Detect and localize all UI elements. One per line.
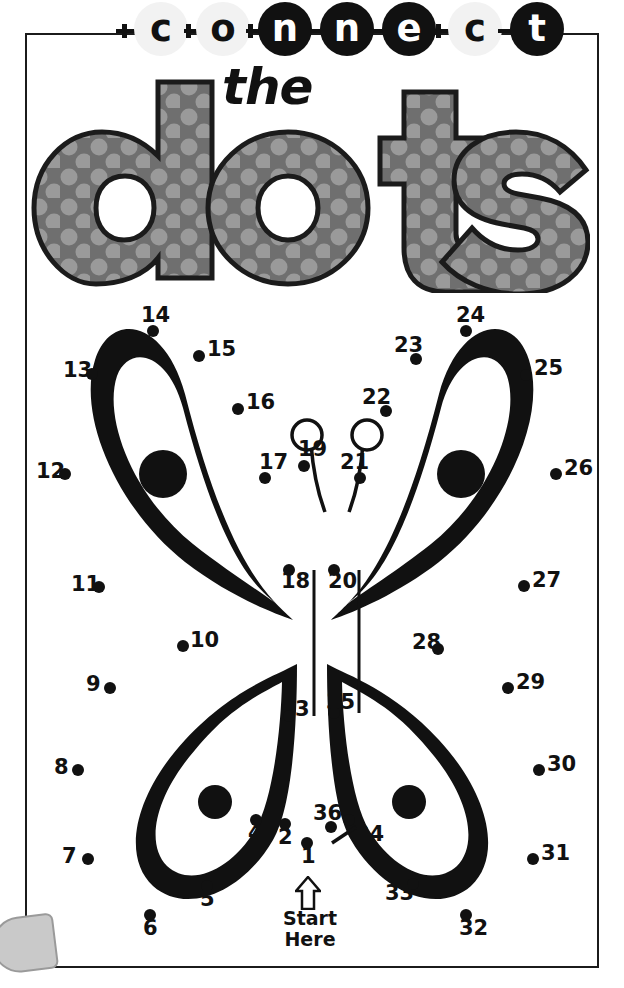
- puzzle-dot-label-34: 34: [355, 822, 384, 846]
- start-here-caption: Start Here: [268, 908, 352, 950]
- puzzle-dot-7[interactable]: [82, 853, 94, 865]
- puzzle-dot-label-30: 30: [547, 752, 576, 776]
- puzzle-dot-27[interactable]: [518, 580, 530, 592]
- start-line-2: Here: [268, 929, 352, 950]
- puzzle-page: c o n n e c t the: [0, 0, 624, 988]
- start-here-arrow-icon: [295, 876, 321, 910]
- connect-letter-6: c: [448, 2, 502, 56]
- puzzle-dot-label-20: 20: [328, 569, 357, 593]
- butterfly-puzzle-area: 1234567891011121314151617181920212223242…: [25, 300, 599, 960]
- puzzle-dot-31[interactable]: [527, 853, 539, 865]
- puzzle-dot-label-23: 23: [394, 333, 423, 357]
- connect-letter-2: o: [196, 2, 250, 56]
- start-line-1: Start: [268, 908, 352, 929]
- puzzle-dot-label-15: 15: [207, 337, 236, 361]
- puzzle-dot-label-5: 5: [200, 887, 215, 911]
- puzzle-dot-label-29: 29: [516, 670, 545, 694]
- puzzle-dot-label-19: 19: [298, 437, 327, 461]
- title-link-tick: [436, 24, 441, 38]
- connect-letter-5: e: [382, 2, 436, 56]
- puzzle-dot-label-14: 14: [141, 303, 170, 327]
- puzzle-dot-10[interactable]: [177, 640, 189, 652]
- puzzle-dot-label-2: 2: [278, 825, 293, 849]
- puzzle-dot-label-21: 21: [340, 450, 369, 474]
- puzzle-dot-label-26: 26: [564, 456, 593, 480]
- puzzle-dot-3[interactable]: [283, 710, 295, 722]
- connect-letter-4: n: [320, 2, 374, 56]
- puzzle-dot-25[interactable]: [520, 369, 532, 381]
- title-link-tick: [186, 24, 191, 38]
- dots-letter-d: [34, 82, 212, 284]
- puzzle-dot-9[interactable]: [104, 682, 116, 694]
- title-link-tick: [248, 24, 253, 38]
- puzzle-dot-label-17: 17: [259, 450, 288, 474]
- dots-letter-s: [442, 132, 588, 293]
- puzzle-dot-label-1: 1: [301, 844, 316, 868]
- puzzle-dot-label-32: 32: [459, 916, 488, 940]
- puzzle-dot-26[interactable]: [550, 468, 562, 480]
- puzzle-dot-label-25: 25: [534, 356, 563, 380]
- puzzle-dot-34[interactable]: [343, 814, 355, 826]
- connect-title: c o n n e c t: [130, 2, 540, 60]
- puzzle-dot-label-33: 33: [385, 881, 414, 905]
- puzzle-dot-16[interactable]: [232, 403, 244, 415]
- puzzle-dot-label-24: 24: [456, 303, 485, 327]
- puzzle-dot-label-28: 28: [412, 630, 441, 654]
- puzzle-dot-label-36: 36: [313, 801, 342, 825]
- puzzle-dot-label-3: 3: [295, 697, 310, 721]
- puzzle-dot-label-12: 12: [36, 459, 65, 483]
- puzzle-dot-label-22: 22: [362, 385, 391, 409]
- connect-letter-1: c: [134, 2, 188, 56]
- puzzle-dot-label-27: 27: [532, 568, 561, 592]
- wing-lower-left: [136, 664, 297, 899]
- puzzle-dot-8[interactable]: [72, 764, 84, 776]
- the-word: the: [222, 58, 312, 116]
- puzzle-dot-label-10: 10: [190, 628, 219, 652]
- puzzle-dot-label-11: 11: [71, 572, 100, 596]
- puzzle-dot-label-35: 35: [326, 690, 355, 714]
- puzzle-dot-19[interactable]: [298, 460, 310, 472]
- connect-letter-3: n: [258, 2, 312, 56]
- puzzle-dot-label-6: 6: [143, 916, 158, 940]
- puzzle-dot-label-16: 16: [246, 390, 275, 414]
- puzzle-dot-label-7: 7: [62, 844, 77, 868]
- connect-letter-7: t: [510, 2, 564, 56]
- puzzle-dot-label-31: 31: [541, 841, 570, 865]
- puzzle-dot-29[interactable]: [502, 682, 514, 694]
- puzzle-dot-label-13: 13: [63, 358, 92, 382]
- puzzle-dot-30[interactable]: [533, 764, 545, 776]
- puzzle-dot-label-4: 4: [248, 821, 263, 845]
- puzzle-dot-label-8: 8: [54, 755, 69, 779]
- puzzle-dot-15[interactable]: [193, 350, 205, 362]
- dots-letter-o: [208, 132, 368, 284]
- puzzle-dot-label-9: 9: [86, 672, 101, 696]
- puzzle-dot-label-18: 18: [281, 569, 310, 593]
- corner-cutoff-mark: [0, 912, 59, 975]
